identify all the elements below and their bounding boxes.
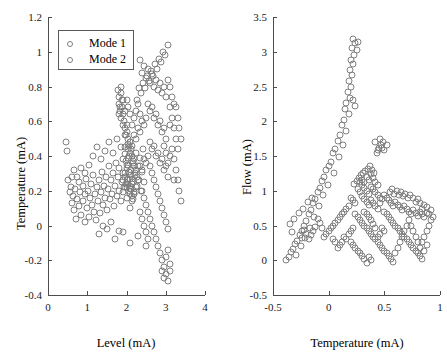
scatter-point — [176, 187, 183, 194]
scatter-point — [137, 163, 144, 170]
scatter-point — [147, 163, 154, 170]
y-tick-mark — [48, 260, 52, 261]
legend-circle-marker-icon — [67, 57, 73, 63]
legend-label: Mode 2 — [89, 52, 126, 67]
y-tick-mark — [273, 52, 277, 53]
scatter-point — [111, 236, 118, 243]
scatter-point — [315, 203, 322, 210]
scatter-point — [423, 241, 430, 248]
scatter-point — [301, 226, 308, 233]
scatter-point — [139, 215, 146, 222]
x-tick-mark — [205, 291, 206, 295]
scatter-point — [103, 206, 110, 213]
scatter-point — [158, 205, 165, 212]
scatter-point — [105, 139, 112, 146]
scatter-point — [143, 229, 150, 236]
scatter-point — [109, 149, 116, 156]
scatter-point — [137, 111, 144, 118]
scatter-point — [151, 60, 158, 67]
legend-left: Mode 1 Mode 2 — [58, 30, 134, 70]
scatter-point — [124, 154, 131, 161]
scatter-point — [117, 90, 124, 97]
scatter-point — [121, 173, 128, 180]
legend-entry-mode-2: Mode 2 — [67, 52, 126, 67]
scatter-point — [143, 243, 150, 250]
scatter-point — [352, 102, 359, 109]
x-tick-mark — [329, 291, 330, 295]
scatter-point — [127, 205, 134, 212]
scatter-point — [297, 243, 304, 250]
y-tick-mark — [48, 121, 52, 122]
legend-circle-marker-icon — [67, 41, 73, 47]
scatter-point — [172, 104, 179, 111]
scatter-point — [99, 222, 106, 229]
scatter-point — [127, 111, 134, 118]
scatter-point — [293, 251, 300, 258]
scatter-point — [113, 135, 120, 142]
y-tick-label: 0.5 — [227, 220, 267, 232]
chart-panel-right: -0.500.511.522.533.5-0.500.51 — [273, 17, 440, 295]
scatter-point — [372, 139, 379, 146]
axis-spine-left-x — [48, 295, 205, 296]
scatter-point — [298, 235, 305, 242]
y-tick-label: 1 — [2, 46, 42, 58]
y-tick-mark — [48, 87, 52, 88]
scatter-point — [150, 229, 157, 236]
x-tick-label: 1 — [437, 301, 443, 313]
scatter-point — [115, 227, 122, 234]
scatter-point — [129, 198, 136, 205]
y-tick-mark — [273, 191, 277, 192]
scatter-point — [145, 236, 152, 243]
scatter-point — [162, 135, 169, 142]
yaxis-title-left: Temperature (mA) — [14, 137, 29, 230]
scatter-point — [145, 208, 152, 215]
scatter-point — [96, 231, 103, 238]
y-tick-mark — [273, 17, 277, 18]
y-tick-mark — [273, 226, 277, 227]
x-tick-label: 0 — [326, 301, 332, 313]
scatter-point — [176, 125, 183, 132]
scatter-point — [335, 154, 342, 161]
scatter-point — [160, 212, 167, 219]
scatter-point — [129, 121, 136, 128]
scatter-point — [119, 121, 126, 128]
x-tick-label: 1 — [85, 301, 91, 313]
scatter-point — [141, 222, 148, 229]
scatter-point — [74, 173, 81, 180]
x-tick-mark — [127, 291, 128, 295]
scatter-point — [92, 217, 99, 224]
y-tick-mark — [273, 260, 277, 261]
scatter-point — [162, 149, 169, 156]
scatter-point — [166, 83, 173, 90]
scatter-point — [320, 191, 327, 198]
x-tick-mark — [440, 291, 441, 295]
scatter-point — [123, 97, 130, 104]
scatter-point — [127, 139, 134, 146]
scatter-point — [172, 166, 179, 173]
x-tick-mark — [166, 291, 167, 295]
x-tick-label: 2 — [124, 301, 130, 313]
scatter-point — [300, 205, 307, 212]
y-tick-mark — [48, 17, 52, 18]
scatter-point — [152, 184, 159, 191]
scatter-point — [347, 239, 354, 246]
scatter-point — [162, 219, 169, 226]
scatter-point — [150, 142, 157, 149]
scatter-point — [156, 118, 163, 125]
y-tick-mark — [273, 295, 277, 296]
scatter-point — [149, 104, 156, 111]
scatter-point — [131, 132, 138, 139]
scatter-point — [283, 257, 290, 264]
scatter-point — [350, 225, 357, 232]
y-tick-label: 1.2 — [2, 11, 42, 23]
scatter-point — [122, 180, 129, 187]
y-tick-label: -0.2 — [2, 254, 42, 266]
scatter-point — [160, 142, 167, 149]
legend-entry-mode-1: Mode 1 — [67, 36, 126, 51]
scatter-point — [70, 166, 77, 173]
yaxis-title-right: Flow (mA) — [240, 139, 255, 195]
scatter-point — [168, 93, 175, 100]
scatter-point — [308, 194, 315, 201]
scatter-point — [323, 166, 330, 173]
scatter-point — [371, 169, 378, 176]
